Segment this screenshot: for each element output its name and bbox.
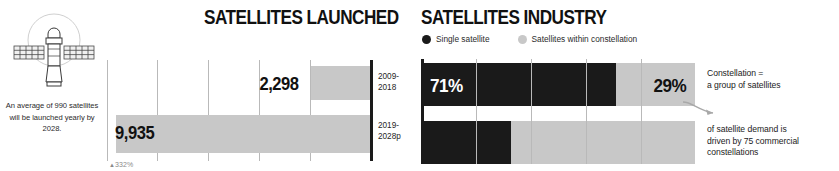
growth-delta-label: ▲332%: [109, 161, 133, 168]
stacked-bar-2009-2018: 71% 29%: [421, 63, 695, 106]
category-label-2009-2018: 2009- 2018: [378, 72, 399, 93]
legend-dot-icon: [518, 35, 527, 44]
legend-item-within-constellation: Satellites within constellation: [518, 34, 638, 44]
legend-dot-icon: [422, 35, 431, 44]
chart-launched-plot: 2,298 9,935: [107, 60, 373, 161]
growth-delta-value: 332%: [115, 161, 133, 168]
note-satellite-demand: of satellite demand is driven by 75 comm…: [707, 124, 839, 159]
legend-label-within-constellation: Satellites within constellation: [532, 34, 638, 44]
chart-industry-title: SATELLITES INDUSTRY: [421, 6, 606, 29]
chart-satellites-launched: 2,298 9,935 ▲332%: [107, 60, 373, 161]
satellite-icon: [8, 4, 100, 96]
chart-industry-axis-left: [421, 59, 424, 164]
callout-arrow-icon: [682, 98, 718, 122]
chart-launched-axis-right: [370, 60, 373, 161]
satellite-caption: An average of 990 satellites will be lau…: [2, 100, 102, 135]
stacked-bar-2019-2028p: 33% 67%: [421, 121, 695, 164]
bar-value-2009-2018: 2,298: [260, 74, 299, 95]
chart-industry-legend: Single satellite Satellites within const…: [422, 34, 637, 44]
chart-launched-axis-left: [107, 60, 108, 161]
satellite-illustration-panel: An average of 990 satellites will be lau…: [0, 0, 104, 171]
segment-label-within-constellation: 29%: [653, 75, 686, 97]
legend-item-single-satellite: Single satellite: [422, 34, 490, 44]
gridline: [476, 59, 477, 164]
infographic-root: An average of 990 satellites will be lau…: [0, 0, 839, 171]
segment-single-satellite: [421, 121, 511, 164]
gridline: [531, 59, 532, 164]
chart-satellites-industry: 71% 29% 33% 67%: [421, 59, 695, 164]
note-constellation-definition: Constellation = a group of satellites: [707, 68, 835, 91]
bar-2009-2018: [311, 66, 370, 100]
category-label-2019-2028p: 2019- 2028p: [378, 121, 401, 142]
legend-label-single-satellite: Single satellite: [436, 34, 490, 44]
gridline: [641, 59, 642, 164]
chart-launched-title: SATELLITES LAUNCHED: [204, 6, 399, 29]
segment-label-single-satellite: 71%: [430, 75, 463, 97]
gridline: [586, 59, 587, 164]
bar-value-2019-2028p: 9,935: [115, 123, 154, 144]
